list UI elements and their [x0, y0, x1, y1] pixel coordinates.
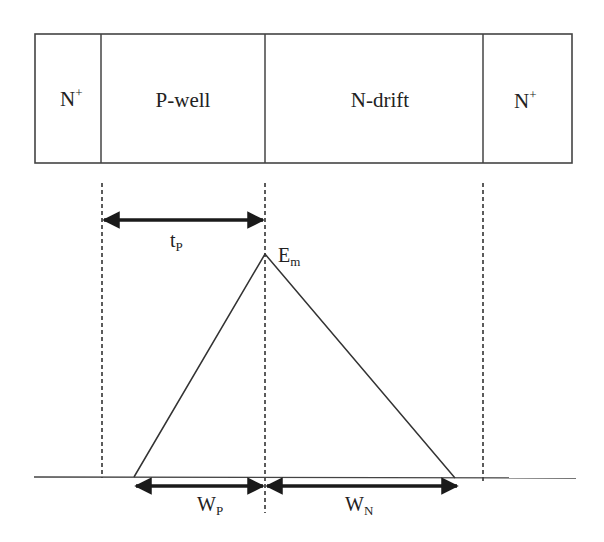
region-n-plus-left: N+ — [60, 85, 83, 111]
region-n-plus-right: N+ — [514, 87, 537, 113]
wp-label: WP — [197, 493, 223, 518]
projection-lines — [102, 183, 483, 513]
wn-label: WN — [345, 493, 374, 518]
electric-field-profile — [134, 254, 455, 478]
tp-label: tP — [170, 229, 183, 254]
device-outline — [35, 34, 572, 163]
baseline — [34, 477, 576, 478]
em-label: Em — [278, 244, 300, 269]
device-structure: N+ P-well N-drift N+ — [35, 34, 572, 163]
region-n-drift: N-drift — [351, 88, 409, 112]
region-p-well: P-well — [156, 88, 211, 112]
pn-junction-field-diagram: N+ P-well N-drift N+ tP Em WP WN — [0, 0, 604, 542]
